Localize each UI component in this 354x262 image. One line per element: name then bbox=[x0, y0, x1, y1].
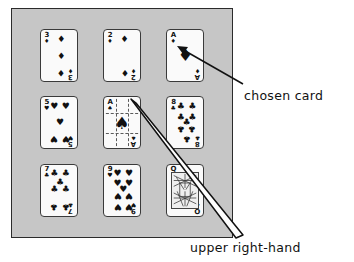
club-icon: ♣ bbox=[177, 101, 185, 110]
diamond-icon: ♦ bbox=[57, 67, 65, 76]
card-cell: 7 ♣ 7 ♣ ♣ ♣ ♣ ♣ ♣ ♣ ♣ bbox=[27, 157, 90, 224]
club-icon: ♣ bbox=[62, 185, 70, 194]
playing-card-ace-of-diamonds-chosen[interactable]: A ♦ A ♦ ♦ bbox=[166, 29, 204, 82]
diamond-icon: ♦ bbox=[178, 46, 193, 63]
playing-card-5-of-hearts[interactable]: 5 ♥ 5 ♥ ♥ ♥ ♥ ♥ ♥ bbox=[40, 96, 78, 149]
heart-icon: ♥ bbox=[125, 169, 133, 178]
heart-icon: ♥ bbox=[62, 101, 70, 110]
playing-card-7-of-clubs[interactable]: 7 ♣ 7 ♣ ♣ ♣ ♣ ♣ ♣ ♣ ♣ bbox=[40, 164, 78, 217]
heart-icon: ♥ bbox=[62, 134, 70, 143]
card-cell: 5 ♥ 5 ♥ ♥ ♥ ♥ ♥ ♥ bbox=[27, 89, 90, 156]
upper-right-hand-label: upper right-hand bbox=[190, 240, 301, 255]
card-pip-field: ♠ bbox=[111, 101, 133, 144]
heart-icon: ♥ bbox=[50, 101, 58, 110]
card-pip-field: ♦ ♦ ♦ bbox=[48, 34, 70, 77]
diamond-icon: ♦ bbox=[57, 51, 65, 60]
playing-card-2-of-diamonds[interactable]: 2 ♦ 2 ♦ ♦ ♦ bbox=[103, 29, 141, 82]
chosen-card-label: chosen card bbox=[244, 88, 323, 103]
card-pip-field: ♥ ♥ ♥ ♥ ♥ ♥ ♥ ♥ ♥ bbox=[111, 169, 133, 212]
heart-icon: ♥ bbox=[114, 191, 122, 200]
club-icon: ♣ bbox=[188, 101, 196, 110]
card-pip-field: ♣ ♣ ♣ ♣ ♣ ♣ ♣ ♣ bbox=[174, 101, 196, 144]
card-cell: 8 ♣ 8 ♣ ♣ ♣ ♣ ♣ ♣ ♣ ♣ ♣ bbox=[154, 89, 217, 156]
diamond-icon: ♦ bbox=[121, 35, 129, 44]
club-icon: ♣ bbox=[50, 201, 58, 210]
heart-icon: ♥ bbox=[125, 201, 133, 210]
spade-icon: ♠ bbox=[114, 114, 129, 131]
club-icon: ♣ bbox=[50, 185, 58, 194]
card-cell: A ♦ A ♦ ♦ bbox=[154, 22, 217, 89]
heart-icon: ♥ bbox=[125, 191, 133, 200]
playing-card-queen-of-spades[interactable]: Q ♠ Q ♠ bbox=[166, 164, 204, 217]
card-cell: 9 ♥ 9 ♥ ♥ ♥ ♥ ♥ ♥ ♥ ♥ ♥ ♥ bbox=[90, 157, 153, 224]
card-cell: 3 ♦ 3 ♦ ♦ ♦ ♦ bbox=[27, 22, 90, 89]
card-cell: A ♠ A ♠ ♠ bbox=[90, 89, 153, 156]
card-cell: 2 ♦ 2 ♦ ♦ ♦ bbox=[90, 22, 153, 89]
heart-icon: ♥ bbox=[114, 169, 122, 178]
court-card-artwork bbox=[171, 172, 199, 209]
playing-card-8-of-clubs[interactable]: 8 ♣ 8 ♣ ♣ ♣ ♣ ♣ ♣ ♣ ♣ ♣ bbox=[166, 96, 204, 149]
diamond-icon: ♦ bbox=[57, 35, 65, 44]
card-pip-field: ♣ ♣ ♣ ♣ ♣ ♣ ♣ bbox=[48, 169, 70, 212]
heart-icon: ♥ bbox=[56, 117, 64, 126]
club-icon: ♣ bbox=[183, 134, 191, 143]
playing-card-9-of-hearts[interactable]: 9 ♥ 9 ♥ ♥ ♥ ♥ ♥ ♥ ♥ ♥ ♥ ♥ bbox=[103, 164, 141, 217]
club-icon: ♣ bbox=[188, 124, 196, 133]
figure-canvas: 3 ♦ 3 ♦ ♦ ♦ ♦ 2 ♦ bbox=[0, 0, 354, 262]
heart-icon: ♥ bbox=[114, 201, 122, 210]
club-icon: ♣ bbox=[177, 124, 185, 133]
card-grid: 3 ♦ 3 ♦ ♦ ♦ ♦ 2 ♦ bbox=[11, 8, 233, 238]
card-pip-field: ♦ ♦ bbox=[111, 34, 133, 77]
club-icon: ♣ bbox=[62, 201, 70, 210]
card-pip-field: ♥ ♥ ♥ ♥ ♥ bbox=[48, 101, 70, 144]
playing-card-3-of-diamonds[interactable]: 3 ♦ 3 ♦ ♦ ♦ ♦ bbox=[40, 29, 78, 82]
diamond-icon: ♦ bbox=[121, 67, 129, 76]
card-pip-field: ♦ bbox=[174, 34, 196, 77]
playing-card-ace-of-spades-reference[interactable]: A ♠ A ♠ ♠ bbox=[103, 96, 141, 149]
card-cell: Q ♠ Q ♠ bbox=[154, 157, 217, 224]
heart-icon: ♥ bbox=[50, 134, 58, 143]
